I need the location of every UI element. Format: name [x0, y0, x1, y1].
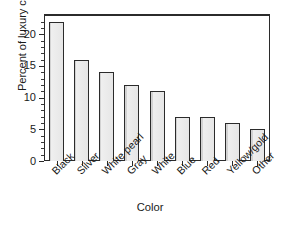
bar: [74, 60, 89, 161]
y-tick-minor: [41, 91, 44, 92]
y-tick-minor: [41, 85, 44, 86]
bar: [49, 22, 64, 161]
y-tick-label: 15: [0, 60, 36, 71]
y-tick-minor: [41, 79, 44, 80]
y-tick-minor: [41, 47, 44, 48]
y-tick-minor: [41, 53, 44, 54]
bar: [150, 91, 165, 161]
y-tick-minor: [41, 41, 44, 42]
y-tick-minor: [41, 123, 44, 124]
y-tick-minor: [41, 28, 44, 29]
y-tick-minor: [41, 148, 44, 149]
y-tick-major: [39, 98, 44, 99]
y-tick-minor: [41, 104, 44, 105]
y-tick-label: 20: [0, 29, 36, 40]
x-axis-title: Color: [110, 201, 190, 213]
bar-chart: Percent of luxury cars 05101520 BlackSil…: [0, 0, 288, 233]
y-tick-minor: [41, 60, 44, 61]
y-tick-minor: [41, 110, 44, 111]
bar: [99, 72, 114, 161]
y-tick-minor: [41, 136, 44, 137]
y-tick-label: 0: [0, 156, 36, 167]
bars-layer: [44, 14, 270, 161]
y-tick-minor: [41, 22, 44, 23]
y-tick-major: [39, 34, 44, 35]
y-tick-minor: [41, 117, 44, 118]
y-tick-label: 5: [0, 124, 36, 135]
y-tick-major: [39, 66, 44, 67]
y-tick-major: [39, 129, 44, 130]
y-tick-label: 10: [0, 92, 36, 103]
y-tick-minor: [41, 72, 44, 73]
y-tick-minor: [41, 142, 44, 143]
y-tick-minor: [41, 155, 44, 156]
y-tick-major: [39, 161, 44, 162]
